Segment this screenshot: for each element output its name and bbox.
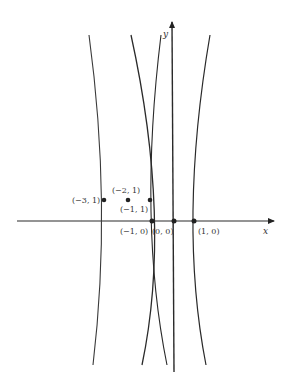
point-1-0 (192, 219, 197, 224)
point-0-0 (172, 219, 177, 224)
label-1-0: (1, 0) (198, 227, 220, 236)
diagram-canvas: (−3, 1) (−2, 1) (−1, 1) (−1, 0) (0, 0) (… (0, 0, 290, 391)
point-neg2-1 (126, 198, 131, 203)
label-0-0: (0, 0) (152, 227, 174, 236)
x-axis-label: x (263, 226, 268, 236)
label-neg1-0: (−1, 0) (120, 227, 148, 236)
y-axis-label: y (162, 29, 169, 39)
curve-4 (193, 35, 210, 365)
point-neg1-0 (150, 219, 155, 224)
point-neg1-1 (148, 198, 153, 203)
point-neg3-1 (102, 198, 107, 203)
label-neg2-1: (−2, 1) (112, 186, 140, 195)
label-neg3-1: (−3, 1) (72, 196, 100, 205)
y-axis (172, 22, 174, 372)
label-neg1-1: (−1, 1) (120, 205, 148, 214)
